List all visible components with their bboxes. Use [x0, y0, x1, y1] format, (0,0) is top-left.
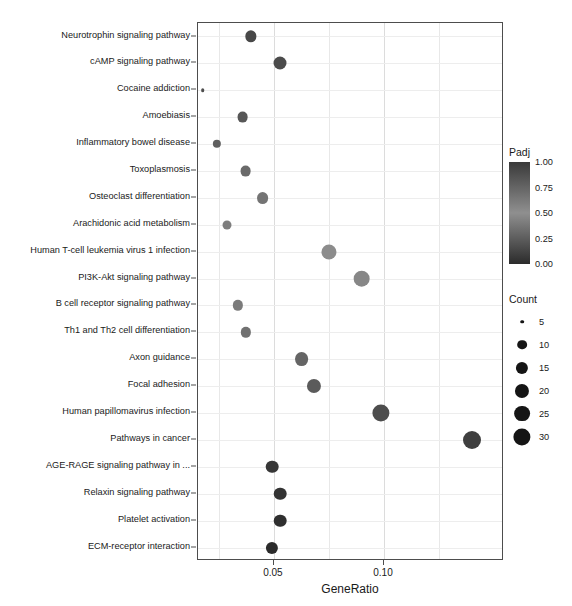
data-point [240, 327, 250, 337]
gridline-vertical-major [384, 23, 385, 559]
data-point [240, 165, 251, 176]
legend-count-items: 51015202530 [509, 310, 572, 448]
y-axis-tick-label: Relaxin signaling pathway [84, 488, 190, 497]
gridline-horizontal [198, 198, 502, 199]
legend-count-marker [516, 361, 528, 373]
legend-count-marker-cell [509, 310, 535, 333]
data-point [463, 431, 481, 449]
y-axis-tick-mark [191, 35, 196, 36]
legend-padj-body: 1.000.750.500.250.00 [509, 162, 569, 264]
legend-count: Count 51015202530 [509, 293, 572, 448]
data-point [353, 270, 370, 287]
legend-count-marker [513, 428, 530, 445]
dotplot-figure: Neurotrophin signaling pathwaycAMP signa… [0, 0, 572, 606]
legend-count-label: 15 [539, 363, 549, 373]
x-axis-tick-mark [383, 560, 384, 565]
y-axis-tick-mark [191, 412, 196, 413]
legend-padj-tick-label: 0.25 [535, 234, 553, 244]
data-point [266, 461, 279, 474]
data-point [237, 112, 248, 123]
legend-count-label: 30 [539, 432, 549, 442]
legend-padj-tick-label: 0.75 [535, 183, 553, 193]
data-point [295, 352, 309, 366]
gridline-vertical-minor [439, 23, 440, 559]
data-point [274, 514, 287, 527]
y-axis-tick-mark [191, 143, 196, 144]
legend-count-marker-cell [509, 425, 535, 448]
y-axis-tick-label: Toxoplasmosis [130, 165, 190, 174]
legend-count-label: 25 [539, 409, 549, 419]
y-axis-tick-label: Cocaine addiction [117, 85, 190, 94]
data-point [233, 300, 243, 310]
legend-padj-tick-label: 0.00 [535, 259, 553, 269]
y-axis-tick-mark [191, 277, 196, 278]
y-axis-tick-label: Pathways in cancer [110, 434, 190, 443]
y-axis-tick-label: Inflammatory bowel disease [76, 138, 190, 147]
y-axis-tick-label: Osteoclast differentiation [89, 192, 190, 201]
x-axis-tick-mark [273, 560, 274, 565]
gridline-horizontal [198, 90, 502, 91]
legend-padj-tick-label: 0.50 [535, 208, 553, 218]
y-axis-tick-mark [191, 250, 196, 251]
gridline-horizontal [198, 252, 502, 253]
y-axis-tick-label: B cell receptor signaling pathway [56, 300, 190, 309]
gridline-horizontal [198, 386, 502, 387]
y-axis-tick-label: Human T-cell leukemia virus 1 infection [30, 246, 190, 255]
y-axis-tick-label: Axon guidance [129, 354, 190, 363]
y-axis-tick-label: PI3K-Akt signaling pathway [78, 273, 190, 282]
x-axis-title: GeneRatio [197, 582, 503, 596]
gridline-horizontal [198, 359, 502, 360]
legend-count-label: 5 [539, 317, 544, 327]
gridline-horizontal [198, 305, 502, 306]
gridline-horizontal [198, 36, 502, 37]
y-axis-labels: Neurotrophin signaling pathwaycAMP signa… [0, 0, 190, 606]
legend-count-item: 25 [509, 402, 572, 425]
gridline-vertical-major [274, 23, 275, 559]
data-point [307, 379, 321, 393]
x-axis-tick-label: 0.05 [263, 567, 282, 578]
gridline-horizontal [198, 225, 502, 226]
legend-count-label: 20 [539, 386, 549, 396]
gridline-horizontal [198, 144, 502, 145]
legend-count-marker [514, 406, 530, 422]
data-point [257, 192, 269, 204]
legend-count-marker-cell [509, 333, 535, 356]
y-axis-tick-mark [191, 89, 196, 90]
y-axis-tick-label: Amoebiasis [143, 111, 191, 120]
legend-count-marker-cell [509, 356, 535, 379]
y-axis-tick-mark [191, 223, 196, 224]
y-axis-tick-mark [191, 492, 196, 493]
y-axis-tick-mark [191, 358, 196, 359]
y-axis-tick-mark [191, 169, 196, 170]
gridline-horizontal [198, 494, 502, 495]
y-axis-tick-mark [191, 519, 196, 520]
y-axis-tick-mark [191, 546, 196, 547]
y-axis-tick-mark [191, 62, 196, 63]
data-point [266, 541, 278, 553]
legend-count-marker [520, 320, 524, 324]
y-axis-tick-label: Neurotrophin signaling pathway [61, 31, 190, 40]
legend-count-item: 20 [509, 379, 572, 402]
data-point [274, 57, 287, 70]
legend-count-item: 15 [509, 356, 572, 379]
data-point [245, 31, 256, 42]
gridline-horizontal [198, 440, 502, 441]
data-point [373, 404, 390, 421]
y-axis-tick-mark [191, 465, 196, 466]
y-axis-tick-label: AGE-RAGE signaling pathway in ... [46, 461, 190, 470]
gridline-horizontal [198, 413, 502, 414]
data-point [274, 488, 287, 501]
y-axis-tick-label: Th1 and Th2 cell differentiation [64, 327, 190, 336]
legend-count-marker [515, 383, 529, 397]
x-axis-tick-label: 0.10 [373, 567, 392, 578]
legend-count-label: 10 [539, 340, 549, 350]
legend-count-title: Count [509, 293, 572, 305]
gridline-horizontal [198, 521, 502, 522]
y-axis-tick-label: ECM-receptor interaction [88, 542, 190, 551]
gridline-horizontal [198, 548, 502, 549]
gridline-horizontal [198, 467, 502, 468]
legend-count-item: 10 [509, 333, 572, 356]
gridline-horizontal [198, 63, 502, 64]
data-point [222, 220, 231, 229]
y-axis-tick-mark [191, 438, 196, 439]
